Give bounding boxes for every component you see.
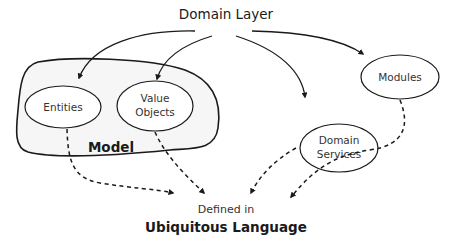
node-domain-services: Domain Services — [300, 124, 378, 172]
entities-label: Entities — [43, 101, 82, 113]
domain-services-label-line1: Domain — [319, 134, 360, 146]
model-label: Model — [88, 139, 134, 155]
node-entities: Entities — [25, 86, 101, 128]
defined-in-label: Defined in — [198, 203, 254, 216]
domain-layer-diagram: Domain Layer Entities Value Objects Mode… — [0, 0, 452, 243]
dashed-arrow-domain-services-to-language — [251, 148, 296, 193]
modules-label: Modules — [378, 71, 422, 83]
arrow-domain-layer-to-domain-services — [236, 36, 305, 97]
value-objects-label-line1: Value — [141, 92, 170, 104]
node-modules: Modules — [361, 55, 439, 99]
diagram-title: Domain Layer — [179, 6, 274, 22]
value-objects-label-line2: Objects — [135, 106, 175, 118]
node-value-objects: Value Objects — [117, 81, 193, 131]
ubiquitous-language-label: Ubiquitous Language — [145, 219, 307, 235]
domain-services-label-line2: Services — [317, 148, 361, 160]
